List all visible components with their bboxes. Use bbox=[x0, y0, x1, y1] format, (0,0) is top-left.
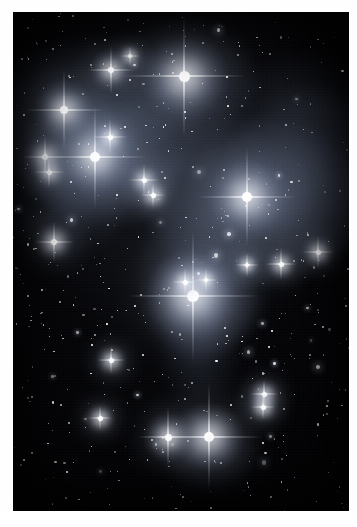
diffraction-spike-vertical bbox=[246, 147, 248, 247]
field-star bbox=[256, 338, 258, 340]
field-star bbox=[134, 305, 135, 306]
field-star bbox=[285, 313, 286, 314]
field-star bbox=[69, 432, 71, 434]
field-star bbox=[99, 263, 100, 264]
field-star bbox=[110, 471, 111, 472]
field-star bbox=[112, 134, 115, 137]
field-star bbox=[217, 282, 218, 283]
field-star bbox=[309, 354, 311, 356]
field-star bbox=[91, 446, 92, 447]
diffraction-spike-vertical bbox=[99, 406, 101, 430]
field-star bbox=[277, 209, 278, 210]
field-star bbox=[180, 227, 182, 229]
field-star bbox=[142, 83, 144, 85]
field-star bbox=[51, 375, 53, 377]
field-star bbox=[290, 354, 291, 355]
field-star bbox=[69, 77, 70, 78]
field-star bbox=[343, 507, 344, 508]
field-star bbox=[85, 176, 86, 177]
field-star bbox=[97, 325, 98, 326]
field-star bbox=[326, 413, 327, 414]
star-halo bbox=[34, 80, 94, 140]
field-star bbox=[45, 479, 46, 480]
star-core bbox=[279, 262, 284, 267]
field-star bbox=[57, 265, 58, 266]
field-star bbox=[114, 451, 116, 453]
field-star bbox=[310, 103, 311, 104]
field-star bbox=[138, 106, 140, 108]
field-star bbox=[344, 225, 346, 227]
field-star bbox=[259, 45, 261, 47]
field-star bbox=[201, 262, 202, 263]
field-star bbox=[221, 208, 222, 209]
field-star bbox=[298, 220, 299, 221]
field-star bbox=[221, 217, 223, 219]
field-star bbox=[103, 382, 105, 384]
bright-cluster-stars bbox=[13, 12, 349, 511]
field-star bbox=[317, 39, 319, 41]
field-star bbox=[316, 501, 317, 502]
field-star bbox=[316, 365, 320, 369]
diffraction-spike-horizontal bbox=[302, 251, 334, 253]
field-star bbox=[268, 204, 270, 206]
field-star bbox=[127, 248, 128, 249]
star-halo bbox=[303, 237, 333, 267]
field-star bbox=[72, 15, 74, 17]
field-star bbox=[296, 235, 298, 237]
field-star bbox=[28, 326, 29, 327]
star-core bbox=[242, 192, 252, 202]
field-star bbox=[41, 289, 43, 291]
field-star bbox=[23, 283, 24, 284]
star-halo bbox=[205, 155, 289, 239]
diffraction-spike-horizontal bbox=[155, 436, 263, 438]
field-star bbox=[171, 331, 172, 332]
field-star bbox=[262, 283, 263, 284]
field-star bbox=[248, 90, 249, 91]
field-star bbox=[40, 313, 41, 314]
field-star bbox=[222, 221, 224, 223]
field-star bbox=[181, 265, 182, 266]
field-star bbox=[70, 181, 71, 182]
field-star bbox=[90, 373, 91, 374]
field-star bbox=[339, 486, 341, 488]
field-star bbox=[143, 315, 144, 316]
field-star bbox=[345, 305, 347, 307]
field-star bbox=[36, 43, 38, 45]
field-star bbox=[180, 494, 181, 495]
field-star bbox=[33, 216, 34, 217]
field-star bbox=[52, 503, 54, 505]
diffraction-spike-vertical bbox=[205, 268, 207, 292]
diffraction-spike-vertical bbox=[152, 183, 154, 207]
field-star bbox=[73, 304, 74, 305]
field-star bbox=[37, 140, 38, 141]
field-star bbox=[54, 375, 55, 376]
field-star bbox=[78, 143, 80, 145]
field-star bbox=[294, 394, 295, 395]
field-star bbox=[52, 401, 54, 403]
field-star bbox=[162, 374, 163, 375]
nebula-maia-nebulosity bbox=[23, 94, 179, 226]
nebula-electra-south-plume bbox=[139, 196, 271, 352]
field-star bbox=[89, 450, 90, 451]
field-star bbox=[142, 354, 144, 356]
field-star bbox=[154, 381, 156, 383]
field-star bbox=[73, 462, 74, 463]
field-star bbox=[210, 507, 212, 509]
field-star bbox=[113, 410, 114, 411]
field-star bbox=[153, 127, 154, 128]
field-star bbox=[294, 477, 295, 478]
field-star bbox=[281, 481, 282, 482]
field-star bbox=[70, 218, 73, 221]
nebula-double-star-halo bbox=[161, 409, 257, 489]
field-star bbox=[156, 448, 157, 449]
field-star bbox=[127, 369, 129, 371]
field-star bbox=[104, 133, 105, 134]
field-star bbox=[27, 164, 28, 165]
field-star bbox=[250, 417, 252, 419]
field-star bbox=[259, 172, 261, 174]
field-star bbox=[162, 437, 163, 438]
field-star bbox=[310, 46, 311, 47]
star-core bbox=[245, 263, 249, 267]
field-star bbox=[217, 343, 218, 344]
field-star bbox=[281, 458, 283, 460]
